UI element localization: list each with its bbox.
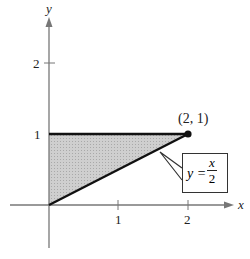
point-label: (2, 1) (178, 112, 208, 126)
point-2-1 (184, 130, 191, 137)
tick-label-x2: 2 (184, 213, 191, 226)
tick-label-y1: 1 (34, 128, 41, 141)
equation-lhs: y = (187, 166, 206, 182)
equation-fraction: x 2 (207, 156, 217, 185)
equation-callout: y = x 2 (182, 153, 228, 193)
tick-label-x1: 1 (115, 213, 122, 226)
x-axis-label: x (238, 198, 244, 211)
y-axis-arrow-icon (46, 17, 53, 27)
x-axis-arrow-icon (224, 202, 234, 209)
equation-denominator: 2 (207, 171, 217, 185)
y-axis-label: y (46, 2, 52, 15)
tick-label-y2: 2 (33, 57, 40, 70)
callout-pointer (160, 152, 182, 180)
equation-numerator: x (207, 156, 217, 171)
